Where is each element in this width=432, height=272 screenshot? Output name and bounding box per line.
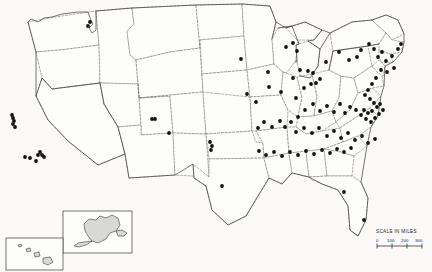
map-dot bbox=[34, 159, 38, 163]
map-dot bbox=[332, 110, 336, 114]
map-dot bbox=[396, 47, 400, 51]
map-dot bbox=[295, 49, 299, 53]
map-dot bbox=[378, 102, 382, 106]
map-dot bbox=[311, 102, 315, 106]
map-dot bbox=[337, 50, 341, 54]
map-dot bbox=[372, 47, 376, 51]
map-dot bbox=[310, 131, 314, 135]
map-dot bbox=[373, 137, 377, 141]
map-dot bbox=[328, 151, 332, 155]
map-dot bbox=[278, 119, 282, 123]
map-dot bbox=[325, 134, 329, 138]
map-dot bbox=[88, 20, 92, 24]
map-dot bbox=[374, 76, 378, 80]
scale-tick-2: 200 bbox=[401, 238, 409, 243]
map-dot bbox=[291, 76, 295, 80]
map-dot bbox=[364, 117, 368, 121]
map-dot bbox=[294, 96, 298, 100]
map-dot bbox=[368, 97, 372, 101]
map-dot bbox=[349, 146, 353, 150]
map-dot bbox=[302, 86, 306, 90]
map-dot bbox=[377, 112, 381, 116]
map-dot bbox=[23, 155, 27, 159]
map-dot bbox=[318, 77, 322, 81]
map-dot bbox=[399, 42, 403, 46]
map-dot bbox=[256, 126, 260, 130]
map-dot bbox=[302, 126, 306, 130]
map-dot bbox=[339, 136, 343, 140]
map-dot bbox=[303, 108, 307, 112]
map-dot bbox=[245, 92, 249, 96]
map-dot bbox=[270, 125, 274, 129]
map-dot bbox=[298, 68, 302, 72]
map-dot bbox=[317, 126, 321, 130]
map-dot bbox=[28, 156, 32, 160]
map-dot bbox=[347, 58, 351, 62]
map-dot bbox=[264, 153, 268, 157]
map-dot bbox=[392, 66, 396, 70]
map-dot bbox=[304, 149, 308, 153]
inset-alaska bbox=[63, 211, 132, 253]
map-dot bbox=[309, 82, 313, 86]
map-dot bbox=[291, 41, 295, 45]
map-dot bbox=[366, 111, 370, 115]
map-dot bbox=[283, 125, 287, 129]
map-dot bbox=[348, 105, 352, 109]
scale-tick-1: 100 bbox=[387, 238, 395, 243]
map-dot bbox=[209, 148, 213, 152]
map-dot bbox=[353, 138, 357, 142]
map-dot bbox=[384, 59, 388, 63]
map-dot bbox=[325, 104, 329, 108]
map-dot bbox=[239, 57, 243, 61]
map-dot bbox=[13, 125, 17, 129]
map-dot bbox=[363, 93, 367, 97]
map-dot bbox=[370, 82, 374, 86]
inset-hawaii bbox=[6, 238, 63, 270]
map-dot bbox=[267, 85, 271, 89]
map-dot bbox=[86, 24, 90, 28]
map-dot bbox=[362, 218, 366, 222]
map-dot bbox=[311, 71, 315, 75]
map-dot bbox=[376, 55, 380, 59]
map-dot bbox=[220, 184, 224, 188]
map-dot bbox=[296, 153, 300, 157]
map-dot bbox=[369, 120, 373, 124]
map-dot bbox=[372, 101, 376, 105]
map-dot bbox=[208, 140, 212, 144]
map-dot bbox=[359, 48, 363, 52]
map-dot bbox=[294, 130, 298, 134]
map-dot bbox=[346, 131, 350, 135]
map-dot bbox=[318, 109, 322, 113]
map-dot bbox=[272, 150, 276, 154]
map-dot bbox=[320, 148, 324, 152]
map-dot bbox=[338, 102, 342, 106]
map-dot bbox=[370, 109, 374, 113]
map-dot bbox=[266, 70, 270, 74]
map-dot bbox=[373, 116, 377, 120]
map-dot bbox=[343, 111, 347, 115]
map-dot bbox=[375, 105, 379, 109]
map-dot bbox=[324, 60, 328, 64]
map-dot bbox=[279, 90, 283, 94]
map-dot bbox=[362, 108, 366, 112]
map-dot bbox=[257, 149, 261, 153]
map-dot bbox=[262, 120, 266, 124]
map-dot bbox=[360, 134, 364, 138]
map-dot bbox=[381, 108, 385, 112]
map-dot bbox=[312, 152, 316, 156]
map-dot bbox=[366, 141, 370, 145]
map-dot bbox=[366, 88, 370, 92]
map-dot bbox=[280, 154, 284, 158]
map-dot bbox=[390, 54, 394, 58]
map-dot bbox=[210, 144, 214, 148]
map-dot bbox=[332, 129, 336, 133]
map-dot bbox=[167, 131, 171, 135]
map-dot bbox=[254, 100, 258, 104]
map-dot bbox=[289, 120, 293, 124]
map-dot bbox=[306, 69, 310, 73]
map-dot bbox=[42, 155, 46, 159]
map-dot bbox=[379, 68, 383, 72]
scale-tick-3: 300 bbox=[415, 238, 423, 243]
map-dot bbox=[342, 190, 346, 194]
map-dot bbox=[288, 150, 292, 154]
